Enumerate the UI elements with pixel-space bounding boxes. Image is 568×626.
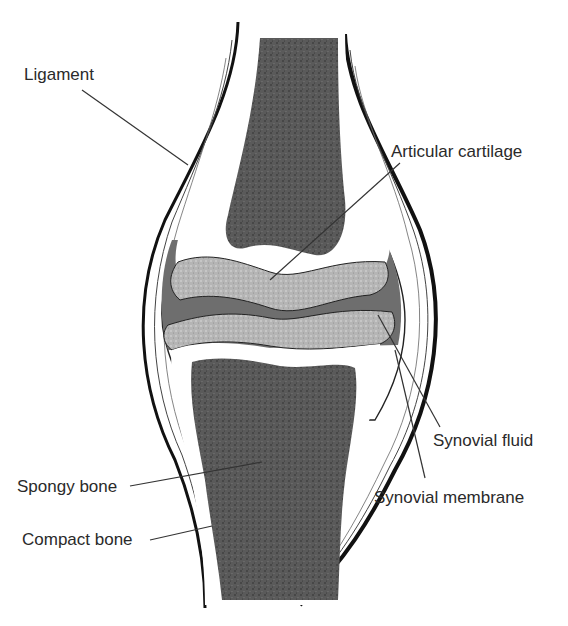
label-spongy-bone: Spongy bone xyxy=(17,478,117,495)
label-compact-bone: Compact bone xyxy=(22,531,133,548)
label-synovial-fluid: Synovial fluid xyxy=(433,432,533,449)
leader-ligament xyxy=(82,90,188,165)
label-synovial-membrane: Synovial membrane xyxy=(374,489,524,506)
label-ligament: Ligament xyxy=(24,66,94,83)
label-articular-cartilage: Articular cartilage xyxy=(391,143,522,160)
synovial-joint-diagram: Ligament Articular cartilage Synovial fl… xyxy=(0,0,568,626)
